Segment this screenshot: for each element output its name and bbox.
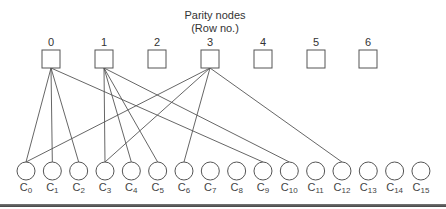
edge-p3-c12 [210,68,342,162]
code-node-label: C11 [303,181,329,195]
parity-node-2 [148,50,166,68]
code-node-8 [228,162,246,180]
parity-node-label: 2 [147,36,167,48]
code-node-10 [280,162,298,180]
code-node-12 [333,162,351,180]
edge-p3-c6 [184,68,210,162]
tanner-graph-diagram: Parity nodes (Row no.) 0123456 C0C1C2C3C… [0,0,446,209]
code-node-label: C7 [197,181,223,195]
code-node-0 [17,162,35,180]
code-node-3 [96,162,114,180]
code-node-label: C12 [329,181,355,195]
code-node-label: C3 [92,181,118,195]
code-node-2 [70,162,88,180]
code-node-14 [386,162,404,180]
code-node-13 [359,162,377,180]
parity-node-5 [307,50,325,68]
parity-node-4 [254,50,272,68]
code-node-5 [149,162,167,180]
parity-node-label: 4 [253,36,273,48]
edge-p0-c1 [51,68,52,162]
code-node-label: C1 [39,181,65,195]
code-node-label: C10 [276,181,302,195]
parity-node-1 [95,50,113,68]
code-node-1 [43,162,61,180]
edge-p1-c3 [104,68,105,162]
code-node-label: C4 [118,181,144,195]
code-node-label: C6 [171,181,197,195]
edge-p0-c2 [51,68,79,162]
code-node-label: C0 [13,181,39,195]
code-node-label: C8 [224,181,250,195]
code-node-label: C15 [408,181,434,195]
code-node-6 [175,162,193,180]
parity-node-0 [42,50,60,68]
parity-node-label: 1 [94,36,114,48]
code-node-label: C5 [145,181,171,195]
parity-node-label: 6 [358,36,378,48]
parity-node-label: 5 [306,36,326,48]
parity-node-3 [201,50,219,68]
parity-node-label: 3 [200,36,220,48]
parity-node-label: 0 [41,36,61,48]
code-node-15 [412,162,430,180]
code-node-label: C2 [66,181,92,195]
code-node-9 [254,162,272,180]
code-node-7 [201,162,219,180]
edge-p3-c3 [105,68,210,162]
code-node-label: C14 [382,181,408,195]
code-node-label: C9 [250,181,276,195]
code-node-11 [307,162,325,180]
bottom-rule [0,204,446,207]
graph-canvas [0,0,446,209]
parity-node-6 [359,50,377,68]
edge-p3-c0 [26,68,210,162]
code-node-4 [122,162,140,180]
edge-p0-c0 [26,68,51,162]
code-node-label: C13 [355,181,381,195]
